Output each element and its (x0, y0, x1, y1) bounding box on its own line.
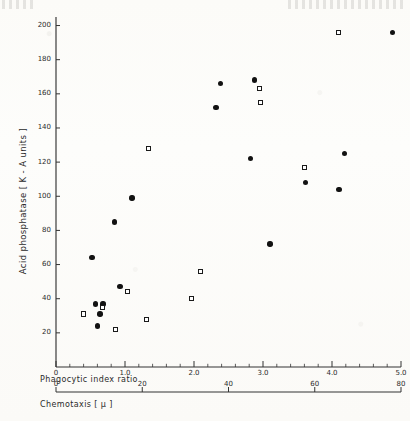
data-point-filled-circle (267, 241, 272, 246)
y-tick-label: 80 (29, 226, 51, 234)
data-point-filled-circle (336, 187, 341, 192)
data-point-filled-circle (89, 255, 94, 260)
data-point-open-square (198, 269, 203, 274)
x-upper-tick-label: 4.0 (321, 369, 343, 377)
data-point-open-square (189, 296, 194, 301)
data-point-open-square (302, 165, 307, 170)
y-tick-label: 140 (29, 123, 51, 131)
x-lower-tick-label: 0 (45, 380, 67, 388)
y-axis-title: Acid phosphatase [ K - A units ] (18, 116, 28, 286)
y-tick-label: 160 (29, 89, 51, 97)
y-tick-label: 40 (29, 294, 51, 302)
x-lower-tick-label: 40 (218, 380, 240, 388)
y-tick-label: 180 (29, 55, 51, 63)
data-point-filled-circle (97, 311, 102, 316)
y-tick-label: 200 (29, 21, 51, 29)
x-upper-tick-label: 3.0 (252, 369, 274, 377)
axes-frame (0, 0, 410, 421)
scatter-plot-figure: Acid phosphatase [ K - A units ] Phagocy… (0, 0, 410, 421)
x-upper-tick-label: 1.0 (114, 369, 136, 377)
x-upper-tick-label: 0 (45, 369, 67, 377)
data-point-open-square (125, 289, 130, 294)
y-tick-label: 120 (29, 158, 51, 166)
data-point-open-square (146, 146, 151, 151)
x-lower-tick-label: 80 (390, 380, 410, 388)
y-tick-label: 20 (29, 328, 51, 336)
x-lower-tick-label: 60 (304, 380, 326, 388)
x-axis-lower-title: Chemotaxis [ μ ] (40, 400, 113, 409)
data-point-filled-circle (95, 323, 100, 328)
data-point-open-square (257, 86, 262, 91)
x-upper-tick-label: 2.0 (183, 369, 205, 377)
y-tick-label: 60 (29, 260, 51, 268)
data-point-open-square (258, 100, 263, 105)
data-point-open-square (336, 30, 341, 35)
data-point-open-square (144, 317, 149, 322)
data-point-filled-circle (129, 195, 134, 200)
data-point-filled-circle (112, 219, 117, 224)
x-lower-tick-label: 20 (131, 380, 153, 388)
data-point-filled-circle (213, 105, 218, 110)
data-point-open-square (100, 305, 105, 310)
data-point-open-square (113, 327, 118, 332)
data-point-open-square (81, 311, 86, 316)
data-point-filled-circle (93, 301, 98, 306)
x-upper-tick-label: 5.0 (390, 369, 410, 377)
y-tick-label: 100 (29, 192, 51, 200)
